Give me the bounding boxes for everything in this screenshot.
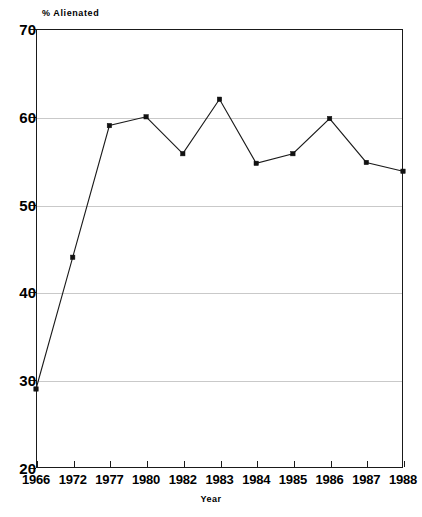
x-tick-label-1988: 1988	[389, 472, 417, 487]
data-point-1986	[327, 116, 331, 120]
x-tick-label-1982: 1982	[169, 472, 197, 487]
y-tick-label-40: 40	[6, 285, 36, 300]
series-path	[36, 99, 403, 389]
data-point-1980	[144, 115, 148, 119]
data-point-1972	[71, 255, 75, 259]
x-tick-label-1980: 1980	[132, 472, 160, 487]
x-axis-label: Year	[0, 494, 422, 504]
data-point-1983	[217, 97, 221, 101]
x-tick-label-1984: 1984	[242, 472, 270, 487]
x-tick-label-1977: 1977	[95, 472, 123, 487]
data-point-1977	[107, 123, 111, 127]
data-point-1985	[291, 151, 295, 155]
x-tick-label-1987: 1987	[352, 472, 380, 487]
data-point-1987	[364, 160, 368, 164]
data-point-1984	[254, 161, 258, 165]
y-axis-label: % Alienated	[42, 8, 99, 18]
y-tick-label-50: 50	[6, 197, 36, 212]
x-tick-label-1985: 1985	[279, 472, 307, 487]
y-tick-label-60: 60	[6, 109, 36, 124]
data-series-line-alienated	[36, 29, 403, 468]
y-tick-label-30: 30	[6, 373, 36, 388]
data-point-1982	[181, 151, 185, 155]
data-point-1988	[401, 169, 405, 173]
x-tick-label-1986: 1986	[316, 472, 344, 487]
x-tick-label-1983: 1983	[205, 472, 233, 487]
x-axis-tick-labels: 1966197219771980198219831984198519861987…	[0, 472, 422, 492]
y-axis-ticks: 203040506070	[0, 29, 36, 468]
data-point-1966	[34, 387, 38, 391]
x-tick-mark-1988	[404, 461, 405, 467]
chart-container: % Alienated 203040506070 196619721977198…	[0, 0, 422, 517]
x-tick-label-1972: 1972	[59, 472, 87, 487]
x-tick-label-1966: 1966	[22, 472, 50, 487]
y-tick-label-70: 70	[6, 22, 36, 37]
